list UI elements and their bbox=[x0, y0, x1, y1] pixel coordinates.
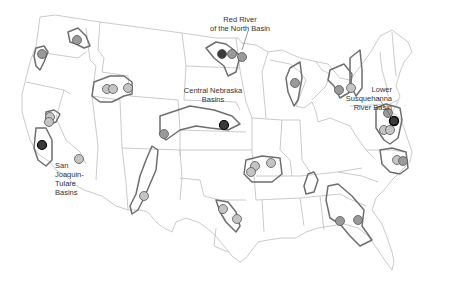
label-line: Joaquin- bbox=[55, 170, 84, 179]
site-marker bbox=[109, 85, 118, 94]
state-boundaries bbox=[22, 15, 412, 270]
site-marker bbox=[336, 217, 345, 226]
label-line: River Basin bbox=[340, 103, 392, 112]
label-line: Red River bbox=[202, 15, 278, 24]
site-marker bbox=[390, 117, 399, 126]
site-marker bbox=[124, 84, 133, 93]
site-marker bbox=[386, 126, 395, 135]
site-marker bbox=[220, 121, 229, 130]
site-marker bbox=[233, 215, 242, 224]
label-line: Basins bbox=[55, 188, 84, 197]
label-line: Lower bbox=[340, 85, 392, 94]
us-basin-map bbox=[0, 0, 468, 296]
site-marker bbox=[399, 157, 408, 166]
site-marker bbox=[291, 79, 300, 88]
site-marker bbox=[73, 36, 82, 45]
label-line: Basins bbox=[178, 95, 248, 104]
label-line: San bbox=[55, 161, 84, 170]
label-line: of the North Basin bbox=[202, 24, 278, 33]
label-line: Susquehanna bbox=[340, 94, 392, 103]
label-line: Central Nebraska bbox=[178, 86, 248, 95]
site-marker bbox=[267, 159, 276, 168]
site-marker bbox=[247, 168, 256, 177]
label-central-nebraska: Central Nebraska Basins bbox=[178, 86, 248, 104]
label-line: Tulare bbox=[55, 179, 84, 188]
site-marker bbox=[45, 118, 54, 127]
label-lower-susquehanna: Lower Susquehanna River Basin bbox=[340, 85, 392, 112]
site-marker bbox=[38, 50, 47, 59]
site-marker bbox=[160, 130, 169, 139]
site-marker bbox=[38, 141, 47, 150]
site-marker bbox=[354, 216, 363, 225]
site-marker bbox=[219, 205, 228, 214]
site-marker bbox=[238, 53, 247, 62]
site-marker bbox=[218, 50, 227, 59]
site-marker bbox=[228, 50, 237, 59]
label-san-joaquin: San Joaquin- Tulare Basins bbox=[55, 161, 84, 197]
label-red-river: Red River of the North Basin bbox=[202, 15, 278, 33]
site-marker bbox=[140, 192, 149, 201]
